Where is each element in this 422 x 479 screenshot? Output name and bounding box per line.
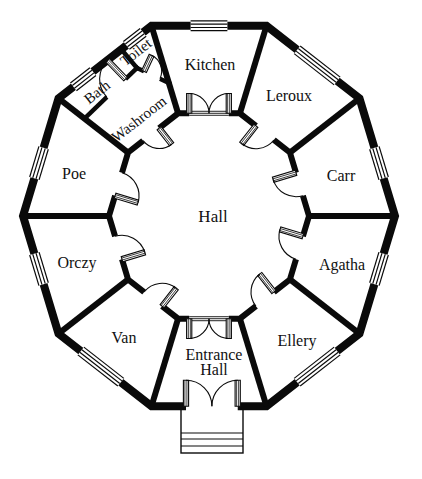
room-label-poe: Poe [62, 165, 86, 182]
window-carr-gap [374, 148, 383, 179]
front-door-left-leaf [235, 380, 240, 406]
window-ellery [298, 352, 338, 383]
room-label-ellery: Ellery [277, 332, 316, 350]
floorplan-svg: HallKitchenLerouxCarrAgathaElleryEntranc… [0, 0, 422, 479]
window-van [80, 352, 120, 383]
window-ellery-gap [297, 351, 337, 382]
decagon-house-floor-plan: HallKitchenLerouxCarrAgathaElleryEntranc… [0, 0, 422, 479]
hall-entrance-door-right-leaf [187, 319, 192, 339]
window-bath-gap [73, 72, 93, 87]
window-ellery [296, 350, 336, 381]
partition-wall-1 [240, 26, 267, 113]
room-label-carr: Carr [327, 167, 356, 184]
front-door-right-leaf [183, 380, 188, 406]
room-label-orczy: Orczy [57, 254, 96, 272]
partition-wall-2 [290, 98, 360, 152]
kitchen-door-right-leaf [226, 94, 231, 114]
window-leroux [296, 51, 336, 82]
room-label-van: Van [112, 329, 137, 346]
window-poe-gap [34, 148, 43, 179]
room-label-leroux: Leroux [266, 87, 312, 104]
room-label-kitchen: Kitchen [185, 56, 236, 73]
partition-wall-6 [152, 319, 179, 406]
window-agatha-gap [374, 254, 383, 285]
partition-wall-5 [240, 319, 267, 406]
kitchen-door-left-leaf [187, 94, 192, 114]
room-label-entrance-hall-line1: Hall [200, 361, 228, 378]
window-leroux [298, 48, 338, 79]
window-van [82, 350, 122, 381]
hall-entrance-door-left-leaf [226, 319, 231, 339]
room-label-agatha: Agatha [319, 256, 365, 274]
window-leroux-gap [297, 50, 337, 81]
partition-wall-4 [290, 279, 360, 333]
window-orczy-gap [34, 254, 43, 285]
room-label-hall: Hall [198, 207, 228, 226]
partition-wall-7 [59, 279, 129, 333]
window-van-gap [81, 351, 121, 382]
